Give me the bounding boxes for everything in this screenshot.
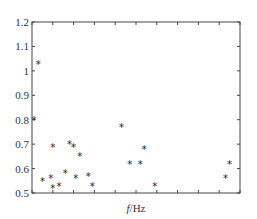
data-point-marker: * xyxy=(90,181,95,192)
y-tick-label: 1.2 xyxy=(15,16,29,28)
plot-area xyxy=(32,22,240,193)
data-point-marker: * xyxy=(223,173,228,184)
data-point-marker: * xyxy=(50,142,55,153)
data-point-marker: * xyxy=(32,115,37,126)
y-tick-label: 1 xyxy=(24,65,30,77)
data-point-marker: * xyxy=(152,181,157,192)
x-axis-label: f/Hz xyxy=(127,202,146,214)
y-tick-label: 0.8 xyxy=(15,114,29,126)
data-point-marker: * xyxy=(73,173,78,184)
data-point-marker: * xyxy=(40,176,45,187)
data-point-marker: * xyxy=(71,142,76,153)
x-axis xyxy=(32,22,240,193)
y-tick-label: 0.7 xyxy=(15,138,29,150)
data-point-marker: * xyxy=(77,151,82,162)
y-axis: 0.50.60.70.80.911.11.2 xyxy=(15,16,240,199)
y-tick-label: 0.6 xyxy=(15,163,29,175)
data-point-marker: * xyxy=(227,159,232,170)
scatter-chart: 0.50.60.70.80.911.11.2 *****************… xyxy=(0,0,257,219)
y-tick-label: 0.5 xyxy=(15,187,29,199)
data-point-marker: * xyxy=(142,144,147,155)
data-point-marker: * xyxy=(57,181,62,192)
data-points: ********************* xyxy=(32,59,233,195)
y-tick-label: 1.1 xyxy=(15,40,29,52)
data-point-marker: * xyxy=(36,59,41,70)
data-point-marker: * xyxy=(127,159,132,170)
data-point-marker: * xyxy=(119,122,124,133)
data-point-marker: * xyxy=(50,183,55,194)
data-point-marker: * xyxy=(138,159,143,170)
data-point-marker: * xyxy=(63,168,68,179)
y-tick-label: 0.9 xyxy=(15,89,29,101)
